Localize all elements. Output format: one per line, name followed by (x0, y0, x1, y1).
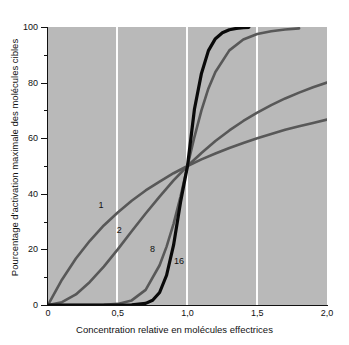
y-tick-minor-30 (44, 222, 48, 223)
y-tick-60 (41, 138, 48, 139)
curve-label-16: 16 (174, 256, 184, 265)
plot-area: 12816 (48, 27, 327, 305)
curve-1 (48, 120, 327, 305)
chart-figure: 12816 020406080100 00,51,01,52,0 Concent… (0, 0, 349, 345)
y-tick-20 (41, 249, 48, 250)
curve-2 (48, 83, 327, 305)
x-axis-line (48, 305, 328, 306)
x-tick-label-0: 0 (45, 308, 50, 318)
curve-label-2: 2 (117, 225, 122, 234)
x-axis-title: Concentration relative en molécules effe… (0, 324, 349, 335)
x-tick-label-2,0: 2,0 (321, 308, 334, 318)
y-tick-label-0: 0 (0, 301, 38, 310)
y-tick-minor-10 (44, 277, 48, 278)
curve-label-1: 1 (98, 200, 103, 209)
curve-label-8: 8 (150, 245, 155, 254)
y-tick-80 (41, 83, 48, 84)
y-tick-0 (41, 305, 48, 306)
y-axis-title: Pourcentage d'activation maximale des mo… (9, 33, 20, 283)
y-tick-40 (41, 194, 48, 195)
x-tick-label-0,5: 0,5 (111, 308, 124, 318)
y-tick-minor-90 (44, 55, 48, 56)
x-tick-label-1,0: 1,0 (181, 308, 194, 318)
y-tick-minor-70 (44, 110, 48, 111)
x-tick-label-1,5: 1,5 (251, 308, 264, 318)
y-tick-minor-50 (44, 166, 48, 167)
curves-group (48, 27, 327, 305)
y-tick-label-100: 100 (0, 23, 38, 32)
y-tick-100 (41, 27, 48, 28)
